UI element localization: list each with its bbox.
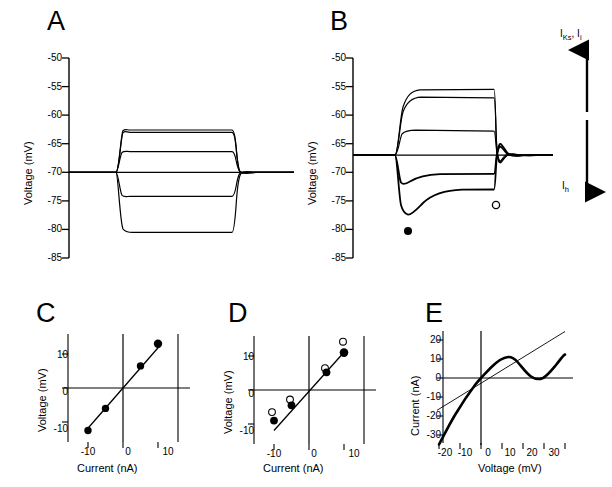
panel-b-ytick-6: -80 [320,223,346,234]
panel-a-yticks [62,58,69,258]
panel-e-xticks [439,443,565,449]
panel-b-letter: B [330,8,348,35]
panel-e-ytick-5: -30 [414,429,441,440]
panel-a-trace-5 [69,172,294,233]
panel-b-outward-current-label: IKs, Ii [560,28,582,42]
panel-a-ytick-6: -80 [36,223,62,234]
panel-a-ylabel: Voltage (mV) [22,141,34,205]
panel-e-ytick-4: -20 [414,410,441,421]
panel-a-ytick-4: -70 [36,166,62,177]
panel-e-letter: E [425,300,443,327]
panel-b-ytick-4: -70 [320,166,346,177]
panel-e-ytick-3: -10 [414,391,441,402]
panel-b-ylabel: Voltage (mV) [306,141,318,205]
panel-a-ytick-0: -50 [36,52,62,63]
panel-b-ytick-7: -85 [320,252,346,263]
panel-e-ylabel: Current (nA) [409,375,421,436]
panel-a-plot [66,45,296,285]
panel-c-plot [66,330,196,450]
panel-a-ytick-7: -85 [36,252,62,263]
panel-e-reference-line [437,332,565,411]
panel-a-ytick-5: -75 [36,195,62,206]
panel-e-iv-curve [439,355,565,445]
panel-a-trace-3 [69,151,294,173]
panel-b-traces [353,89,553,214]
panel-a-trace-2 [69,132,294,174]
panel-b-trace-3 [353,130,553,161]
panel-b-plot [350,45,555,285]
panel-a-ytick-3: -65 [36,138,62,149]
panel-e-xlabel: Voltage (mV) [478,462,542,474]
panel-b-current-arrows [575,40,605,220]
panel-d-xticks [274,444,344,450]
panel-a-ytick-2: -60 [36,109,62,120]
panel-c-letter: C [36,300,56,327]
panel-d-steadystate-points [269,338,347,415]
panel-a-letter: A [47,8,65,35]
panel-d-yticks [248,356,254,424]
panel-b-ih-label: Ih [562,180,569,194]
panel-b-trace-2 [353,97,553,163]
panel-b-ytick-2: -60 [320,109,346,120]
panel-c-ytick-2: -10 [41,423,68,434]
panel-a-traces [69,130,294,233]
panel-d-plot [252,332,382,452]
panel-c-xticks [68,442,178,448]
panel-d-ytick-2: -10 [227,425,254,436]
panel-c-xlabel: Current (nA) [77,462,138,474]
panel-b-peak-marker [404,227,412,235]
panel-b-ytick-1: -55 [320,81,346,92]
panel-e-plot [441,325,581,450]
panel-b-yticks [346,58,353,258]
panel-a-ytick-1: -55 [36,81,62,92]
panel-b-steadystate-marker [492,201,499,208]
panel-b-ytick-0: -50 [320,52,346,63]
panel-b-trace-4 [353,147,553,184]
panel-b-ytick-3: -65 [320,138,346,149]
panel-a-trace-4 [69,172,294,197]
panel-b-trace-1 [353,89,553,162]
panel-b-ytick-5: -75 [320,195,346,206]
panel-d-xlabel: Current (nA) [263,462,324,474]
panel-d-letter: D [228,300,248,327]
panel-c-yticks [62,354,68,422]
